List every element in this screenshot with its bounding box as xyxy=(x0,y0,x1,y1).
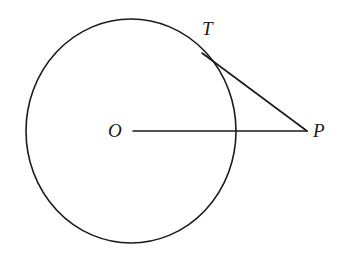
point-label-o: O xyxy=(108,121,122,140)
geometry-diagram: O T P xyxy=(0,0,346,256)
diagram-canvas xyxy=(0,0,346,256)
point-label-t: T xyxy=(202,19,213,38)
tangent-line-t-to-p xyxy=(202,53,307,131)
point-label-p: P xyxy=(313,121,325,140)
